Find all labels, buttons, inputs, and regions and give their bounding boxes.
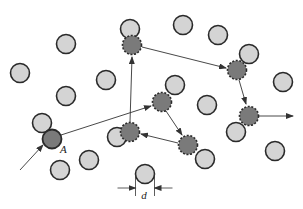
path-particle — [123, 36, 142, 55]
path-arrow — [142, 47, 226, 68]
particle — [266, 142, 285, 161]
particle — [209, 26, 228, 45]
particle — [174, 16, 193, 35]
path-particle — [153, 93, 172, 112]
diagram-svg: A d — [0, 0, 303, 209]
start-particle-label: A — [59, 143, 67, 155]
path-particle — [179, 136, 198, 155]
particle — [227, 123, 246, 142]
path-particle — [228, 61, 247, 80]
background-particles — [11, 16, 293, 184]
particle — [80, 151, 99, 170]
particle — [240, 45, 259, 64]
path-arrow — [20, 145, 43, 170]
particle — [166, 76, 185, 95]
start-particle-circle — [43, 130, 62, 149]
particle — [196, 150, 215, 169]
particle — [57, 35, 76, 54]
path-arrow — [239, 80, 246, 104]
particle — [198, 96, 217, 115]
particle — [97, 71, 116, 90]
particle — [136, 165, 155, 184]
particle — [121, 20, 140, 39]
diameter-label: d — [141, 189, 147, 201]
path-arrow — [141, 134, 178, 143]
particle — [11, 64, 30, 83]
path-particle — [240, 107, 259, 126]
particle — [51, 161, 70, 180]
particle-path-diagram: A d — [0, 0, 303, 209]
path-particle — [121, 123, 140, 142]
start-particle — [43, 130, 62, 149]
particle — [57, 87, 76, 106]
path-arrow — [166, 111, 182, 135]
particle — [274, 73, 293, 92]
